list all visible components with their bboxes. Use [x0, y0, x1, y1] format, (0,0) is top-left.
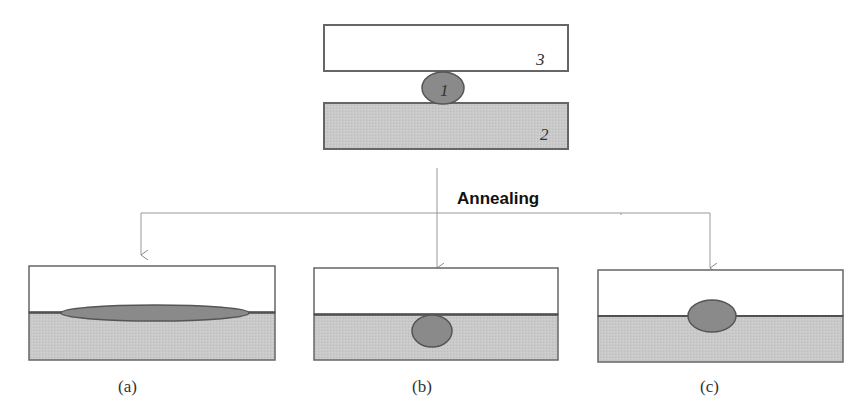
upper-plate-label: 3: [535, 50, 545, 69]
upper-plate: [324, 25, 568, 71]
substrate-label: 2: [540, 125, 549, 144]
particle-lens: [61, 305, 249, 321]
annealing-arrows: [141, 168, 710, 268]
outcome-b: (b): [314, 268, 558, 396]
initial-stack: 3 2 1: [324, 25, 568, 149]
caption-b: (b): [412, 377, 432, 396]
annealing-diagram: 3 2 1 Annealing (a) (b) (c: [0, 0, 868, 420]
caption-c: (c): [700, 377, 719, 396]
substrate: [324, 103, 568, 149]
particle-embedded: [412, 315, 452, 347]
annealing-label: Annealing: [457, 189, 539, 208]
particle-interface: [688, 300, 736, 332]
outcome-c: (c): [598, 270, 843, 396]
caption-a: (a): [118, 377, 137, 396]
particle-label: 1: [440, 81, 449, 100]
outcome-a: (a): [29, 266, 275, 396]
